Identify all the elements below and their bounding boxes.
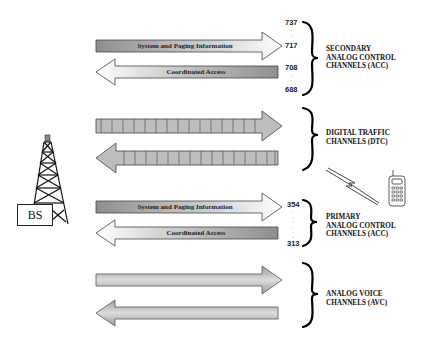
channel-range-dots: ·· bbox=[290, 28, 292, 38]
primary-acc-forward-label: System and Paging Information bbox=[110, 203, 260, 211]
avc-forward-arrow bbox=[96, 266, 282, 294]
channel-range-dots: ·· bbox=[290, 73, 292, 83]
secondary-acc-forward-label: System and Paging Information bbox=[110, 42, 260, 50]
secondary-acc-reverse-label: Coordinated Access bbox=[116, 68, 276, 76]
avc-label: ANALOG VOICE CHANNELS (AVC) bbox=[326, 290, 387, 307]
secondary-acc-label: SECONDARY ANALOG CONTROL CHANNELS (ACC) bbox=[326, 45, 396, 71]
cell-phone-icon bbox=[389, 170, 405, 206]
dtc-forward-arrow bbox=[96, 111, 282, 141]
avc-reverse-arrow bbox=[96, 300, 278, 326]
channel-range-dots: ······ bbox=[292, 210, 294, 240]
dtc-label: DIGITAL TRAFFIC CHANNELS (DTC) bbox=[326, 129, 390, 146]
channel-number-717: 717 bbox=[285, 41, 298, 50]
channel-number-688: 688 bbox=[285, 85, 298, 94]
primary-acc-brace bbox=[303, 200, 317, 246]
dtc-reverse-arrow bbox=[96, 143, 278, 173]
channel-number-708: 708 bbox=[285, 63, 298, 72]
base-station-label: BS bbox=[17, 204, 53, 226]
dtc-brace bbox=[303, 108, 318, 170]
channel-number-354: 354 bbox=[287, 200, 300, 209]
lightning-bolt-icon bbox=[326, 168, 379, 205]
primary-acc-reverse-label: Coordinated Access bbox=[116, 229, 276, 237]
primary-acc-label: PRIMARY ANALOG CONTROL CHANNELS (ACC) bbox=[326, 213, 396, 239]
channel-number-737: 737 bbox=[285, 18, 298, 27]
secondary-acc-brace bbox=[303, 22, 318, 95]
channel-number-313: 313 bbox=[287, 239, 300, 248]
avc-brace bbox=[303, 263, 318, 327]
